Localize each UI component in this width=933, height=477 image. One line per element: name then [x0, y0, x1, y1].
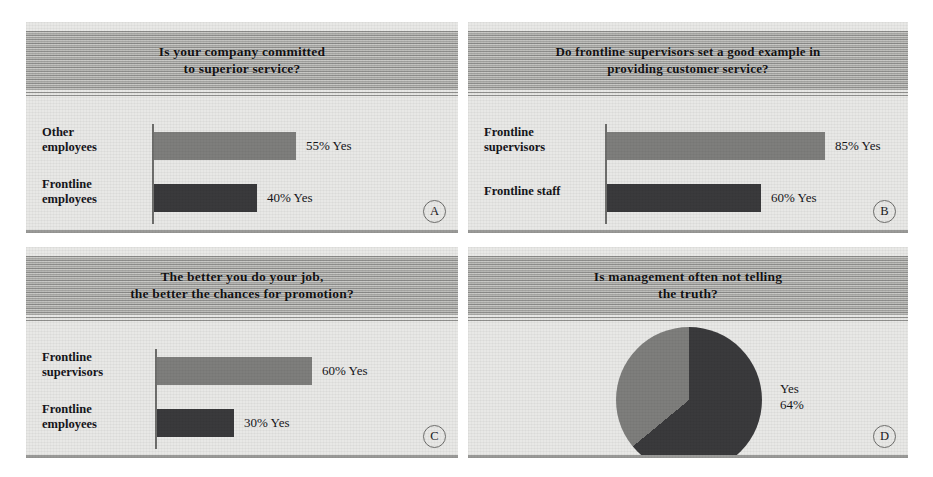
bar-value-label: 85% Yes [835, 138, 881, 154]
panel-title-band: Do frontline supervisors set a good exam… [468, 31, 908, 90]
bar-light [157, 357, 312, 385]
bar-category-label: Frontline employees [42, 402, 149, 431]
bar-light [154, 132, 296, 160]
panel-c: The better you do your job, the better t… [26, 247, 458, 458]
panel-title: Is your company committed to superior se… [159, 44, 325, 77]
panel-title-band: Is management often not telling the trut… [468, 256, 908, 315]
panel-title: The better you do your job, the better t… [130, 269, 354, 302]
panel-badge-d: D [873, 425, 896, 448]
title-band-separator [468, 316, 908, 321]
bar-category-label: Frontline supervisors [42, 350, 149, 379]
bar-dark [157, 409, 234, 437]
bar-category-label: Other employees [42, 125, 146, 154]
panel-a: Is your company committed to superior se… [26, 22, 458, 233]
bar-category-label: Frontline supervisors [484, 125, 599, 154]
bar-dark [607, 184, 761, 212]
panel-bottom-rule [26, 230, 458, 233]
panel-plot-area: Frontline supervisors85% YesFrontline st… [468, 98, 908, 230]
title-band-separator [468, 91, 908, 96]
panel-badge-c: C [423, 425, 446, 448]
panel-plot-area: Yes 64% [468, 323, 908, 455]
title-band-separator [26, 316, 458, 321]
pie-slice-label: Yes 64% [780, 381, 804, 413]
bar-category-label: Frontline staff [484, 184, 599, 199]
pie-chart [616, 327, 762, 458]
bar-value-label: 60% Yes [322, 363, 368, 379]
panel-bottom-rule [26, 455, 458, 458]
four-panel-survey-figure: Is your company committed to superior se… [0, 0, 933, 477]
panel-plot-area: Other employees55% YesFrontline employee… [26, 98, 458, 230]
panel-bottom-rule [468, 455, 908, 458]
bar-value-label: 55% Yes [306, 138, 352, 154]
panel-badge-b: B [873, 200, 896, 223]
bar-category-label: Frontline employees [42, 177, 146, 206]
panel-d: Is management often not telling the trut… [468, 247, 908, 458]
panel-title-band: Is your company committed to superior se… [26, 31, 458, 90]
bar-value-label: 30% Yes [244, 415, 290, 431]
panel-title-band: The better you do your job, the better t… [26, 256, 458, 315]
bar-dark [154, 184, 257, 212]
bar-light [607, 132, 825, 160]
panel-title: Is management often not telling the trut… [594, 269, 782, 302]
bar-value-label: 60% Yes [771, 190, 817, 206]
panel-plot-area: Frontline supervisors60% YesFrontline em… [26, 323, 458, 455]
panel-b: Do frontline supervisors set a good exam… [468, 22, 908, 233]
bar-value-label: 40% Yes [267, 190, 313, 206]
panel-title: Do frontline supervisors set a good exam… [556, 44, 821, 77]
title-band-separator [26, 91, 458, 96]
panel-badge-a: A [423, 200, 446, 223]
panel-bottom-rule [468, 230, 908, 233]
